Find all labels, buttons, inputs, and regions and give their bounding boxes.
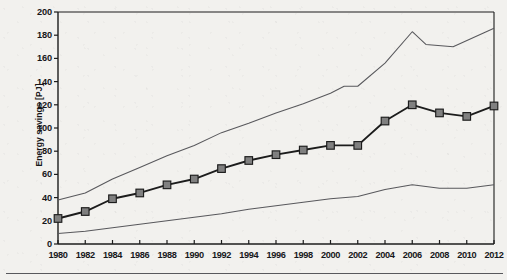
data-point-marker: [354, 142, 362, 150]
data-point-marker: [272, 151, 280, 159]
data-point-marker: [81, 208, 89, 216]
data-point-marker: [490, 102, 498, 110]
data-point-marker: [436, 109, 444, 117]
upper-bound-line: [58, 28, 494, 200]
data-point-marker: [245, 157, 253, 165]
plot-area: [0, 0, 507, 280]
data-point-marker: [163, 181, 171, 189]
data-point-marker: [463, 113, 471, 121]
data-point-marker: [190, 175, 198, 183]
data-point-marker: [381, 117, 389, 125]
data-point-marker: [136, 189, 144, 197]
data-point-marker: [218, 165, 226, 173]
main-series-line: [58, 105, 494, 219]
chart-figure: Energy savings [PJ] 20018016014012010080…: [0, 0, 507, 280]
footer-divider: [6, 273, 503, 274]
data-point-marker: [299, 146, 307, 154]
data-point-marker: [109, 195, 117, 203]
lower-bound-line: [58, 185, 494, 234]
data-point-marker: [408, 101, 416, 109]
data-point-marker: [54, 215, 62, 223]
data-point-marker: [327, 142, 335, 150]
